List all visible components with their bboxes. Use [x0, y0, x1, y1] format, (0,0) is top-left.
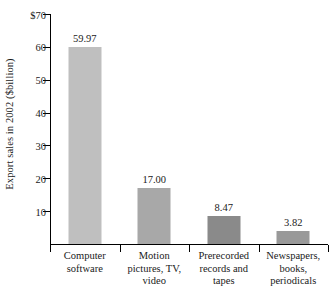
bar-value-label: 3.82 [284, 217, 302, 228]
y-tick-label: 10 [36, 206, 47, 217]
y-tick-label: 60 [36, 42, 47, 53]
y-axis-title-text: Export sales in 2002 ($billion) [4, 58, 15, 189]
y-tick-label: 50 [36, 75, 47, 86]
x-axis-category-labels: ComputersoftwareMotionpictures, TV,video… [50, 250, 328, 296]
category-label: Prerecordedrecords andtapes [189, 250, 259, 288]
y-tick-label: 40 [36, 108, 47, 119]
category-label-line: software [50, 263, 120, 276]
bar-chart: Export sales in 2002 ($billion) $7060504… [0, 0, 329, 296]
bar-slot: 59.97 [50, 14, 120, 244]
bar-slot: 3.82 [259, 14, 329, 244]
bar-value-label: 17.00 [142, 174, 166, 185]
y-tick-label: $70 [30, 9, 46, 20]
category-label-line: tapes [189, 275, 259, 288]
category-label-line: video [120, 275, 190, 288]
bar-slot: 8.47 [189, 14, 259, 244]
category-label-line: Motion [120, 250, 190, 263]
bar[interactable] [207, 216, 240, 244]
bar[interactable] [68, 47, 101, 244]
bar[interactable] [277, 231, 310, 244]
category-label: Newspapers,books,periodicals [259, 250, 329, 288]
plot-area: $70605040302010 59.9717.008.473.82 [50, 14, 328, 245]
category-label-line: books, [259, 263, 329, 276]
bar[interactable] [138, 188, 171, 244]
category-label-line: Prerecorded [189, 250, 259, 263]
category-label-line: Newspapers, [259, 250, 329, 263]
category-label-line: records and [189, 263, 259, 276]
category-label-line: periodicals [259, 275, 329, 288]
category-label-line: Computer [50, 250, 120, 263]
y-axis-title: Export sales in 2002 ($billion) [0, 0, 18, 248]
bar-value-label: 8.47 [215, 202, 233, 213]
category-label-line: pictures, TV, [120, 263, 190, 276]
y-tick-label: 30 [36, 140, 47, 151]
category-label: Computersoftware [50, 250, 120, 275]
category-label: Motionpictures, TV,video [120, 250, 190, 288]
bar-value-label: 59.97 [73, 33, 97, 44]
bar-slot: 17.00 [120, 14, 190, 244]
y-tick-label: 20 [36, 173, 47, 184]
